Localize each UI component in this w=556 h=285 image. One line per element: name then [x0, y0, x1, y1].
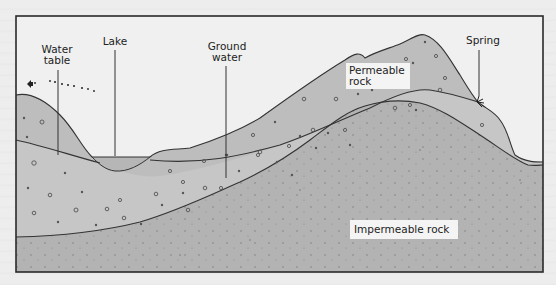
label-spring: Spring [466, 35, 494, 46]
label-ground-water: Ground water [206, 41, 248, 63]
label-impermeable-rock: Impermeable rock [350, 220, 458, 239]
label-lake: Lake [100, 36, 130, 47]
label-permeable-rock: Permeable rock [346, 63, 410, 89]
label-water-table: Water table [32, 44, 82, 66]
